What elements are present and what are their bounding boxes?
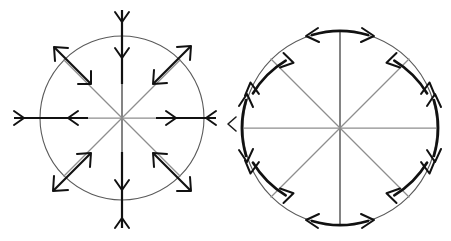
right-spokes [243, 31, 437, 225]
figure-root [0, 0, 451, 241]
right-stray-arrowhead-west [228, 117, 236, 131]
tangential-arrows-diagram [228, 28, 441, 228]
left-spoke-extensions [14, 10, 216, 228]
left-arrow-sw-shaft [54, 154, 90, 190]
radial-arrows-diagram [14, 10, 216, 228]
diagram-canvas [0, 0, 451, 241]
left-arrow-southeast [153, 153, 191, 191]
left-arrow-southwest [53, 153, 91, 191]
left-arrow-se-shaft [154, 154, 190, 190]
left-arrow-northeast [153, 46, 191, 84]
